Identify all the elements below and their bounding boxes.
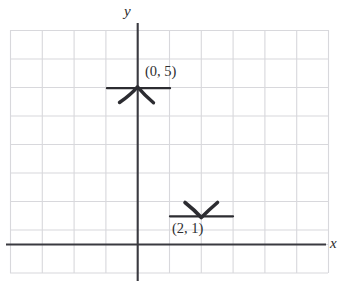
graph-canvas (0, 0, 346, 282)
axes (6, 23, 326, 281)
point-label-vertex-b: (2, 1) (172, 221, 203, 236)
coordinate-graph-figure: y x (0, 5) (2, 1) (0, 0, 346, 282)
y-axis-label: y (124, 4, 131, 19)
point-label-vertex-a: (0, 5) (145, 64, 176, 79)
x-axis-label: x (330, 236, 337, 251)
